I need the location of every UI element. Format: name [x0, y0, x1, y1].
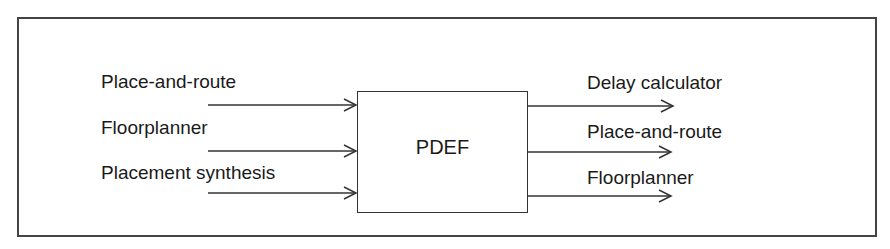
output-arrow-3 — [528, 190, 671, 202]
input-label-floorplanner: Floorplanner — [101, 118, 208, 137]
input-arrow-2 — [208, 145, 356, 157]
output-arrow-2 — [528, 146, 671, 158]
output-label-floorplanner: Floorplanner — [587, 168, 694, 187]
output-label-place-and-route: Place-and-route — [587, 122, 722, 141]
input-arrow-1 — [208, 99, 356, 111]
input-label-place-and-route: Place-and-route — [101, 72, 236, 91]
pdef-block: PDEF — [357, 91, 528, 213]
input-label-placement-synthesis: Placement synthesis — [101, 163, 275, 182]
output-label-delay-calculator: Delay calculator — [587, 73, 722, 92]
input-arrow-3 — [208, 187, 356, 199]
output-arrow-1 — [528, 100, 673, 112]
pdef-block-label: PDEF — [358, 136, 527, 159]
